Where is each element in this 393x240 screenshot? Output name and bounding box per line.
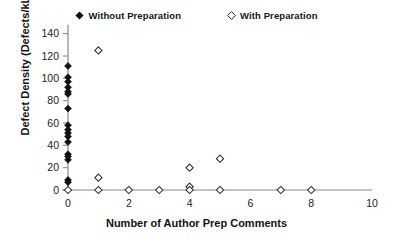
data-point <box>64 186 71 193</box>
data-point <box>95 47 102 54</box>
data-point <box>125 186 132 193</box>
x-tick-label: 4 <box>187 197 193 209</box>
y-tick-label: 40 <box>47 139 59 151</box>
data-point <box>156 186 163 193</box>
chart-figure: Without Preparation With Preparation Def… <box>0 0 393 240</box>
x-tick-label: 6 <box>247 197 253 209</box>
y-tick-label: 120 <box>41 50 59 62</box>
x-tick-label: 10 <box>366 197 378 209</box>
data-point <box>65 105 72 112</box>
y-tick-label: 0 <box>53 184 59 196</box>
y-tick-label: 100 <box>41 72 59 84</box>
plot-area: 0204060801001201400246810 <box>0 0 393 240</box>
series-with-preparation <box>64 47 314 194</box>
data-point <box>216 186 223 193</box>
data-point <box>277 186 284 193</box>
x-tick-label: 0 <box>65 197 71 209</box>
x-tick-label: 8 <box>308 197 314 209</box>
y-tick-label: 60 <box>47 117 59 129</box>
data-point <box>186 164 193 171</box>
x-tick-label: 2 <box>126 197 132 209</box>
data-point <box>65 63 72 70</box>
y-tick-label: 140 <box>41 27 59 39</box>
data-point <box>308 186 315 193</box>
data-point <box>95 174 102 181</box>
x-axis-title: Number of Author Prep Comments <box>0 217 393 229</box>
data-point <box>95 186 102 193</box>
data-point <box>65 138 72 145</box>
y-tick-label: 20 <box>47 161 59 173</box>
data-point <box>216 155 223 162</box>
y-tick-label: 80 <box>47 94 59 106</box>
